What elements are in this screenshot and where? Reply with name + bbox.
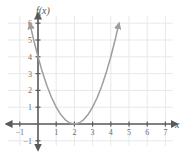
- x-tick-label: 4: [109, 128, 113, 137]
- y-tick-label: 4: [28, 53, 32, 62]
- x-tick-label: 1: [54, 128, 58, 137]
- y-tick-label: −1: [23, 137, 32, 146]
- x-tick-label: 3: [91, 128, 95, 137]
- y-tick-label: 3: [28, 70, 32, 79]
- y-tick-label: 1: [28, 103, 32, 112]
- x-tick-label: −1: [16, 128, 25, 137]
- y-tick-label: 2: [28, 86, 32, 95]
- x-tick-label: 5: [127, 128, 131, 137]
- y-axis-tick-labels: −1123456: [23, 19, 32, 146]
- y-tick-label: 5: [28, 36, 32, 45]
- coordinate-plane-plot: −11234567 −1123456 f(x) x: [0, 0, 184, 157]
- x-tick-label: 7: [163, 128, 167, 137]
- x-axis-label: x: [174, 119, 180, 130]
- x-tick-label: 2: [72, 128, 76, 137]
- graph-figure: −11234567 −1123456 f(x) x: [0, 0, 184, 157]
- y-axis-label: f(x): [36, 5, 51, 17]
- x-tick-label: 6: [145, 128, 149, 137]
